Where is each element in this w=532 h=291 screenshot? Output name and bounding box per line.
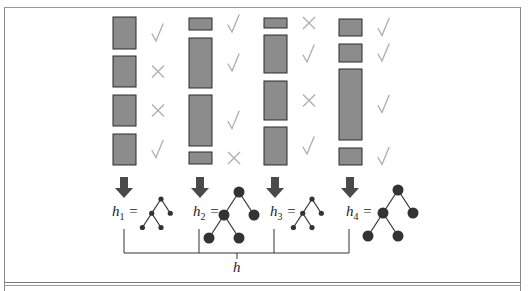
tree-node [204, 233, 215, 244]
tree-node [291, 225, 296, 230]
sample-box [339, 19, 362, 36]
cross-mark-icon [303, 17, 315, 29]
sample-box [264, 127, 287, 165]
check-mark-icon [228, 112, 239, 129]
diagram-canvas [0, 0, 532, 291]
tree-node [393, 231, 404, 242]
check-mark-icon [303, 137, 314, 154]
hypothesis-label-2: h2 = [193, 203, 219, 222]
check-mark-icon [378, 148, 389, 165]
tree-node [140, 225, 145, 230]
hypothesis-label-4: h4 = [346, 203, 372, 222]
ensemble-diagram: h1 = h2 = h3 = h4 = h [0, 0, 532, 291]
check-mark-icon [378, 96, 389, 113]
tree-node [378, 208, 389, 219]
tree-node [234, 233, 245, 244]
sample-box [339, 148, 362, 165]
cross-mark-icon [228, 152, 240, 164]
sample-box [189, 38, 212, 88]
sample-box [189, 95, 212, 146]
tree-node [168, 211, 173, 216]
tree-node [309, 196, 314, 201]
tree-node [249, 210, 260, 221]
check-mark-icon [228, 54, 239, 71]
check-mark-icon [228, 15, 239, 32]
tree-node [363, 231, 374, 242]
sample-box [113, 17, 136, 49]
tree-node [300, 211, 305, 216]
sample-box [264, 35, 287, 73]
down-arrow-icon [266, 177, 284, 198]
down-arrow-icon [191, 177, 209, 198]
sample-box [113, 56, 136, 87]
tree-node [319, 211, 324, 216]
cross-mark-icon [152, 66, 164, 78]
down-arrow-icon [115, 177, 133, 198]
tree-node [158, 225, 163, 230]
tree-node [149, 211, 154, 216]
sample-box [113, 134, 136, 165]
hypothesis-label-3: h3 = [270, 203, 296, 222]
sample-box [113, 95, 136, 126]
tree-node [234, 187, 245, 198]
sample-box [264, 81, 287, 120]
check-mark-icon [152, 141, 163, 158]
check-mark-icon [378, 19, 389, 36]
check-mark-icon [378, 44, 389, 61]
combined-hypothesis-label: h [233, 259, 241, 276]
down-arrow-icon [341, 177, 359, 198]
sample-box [189, 18, 212, 30]
tree-node [408, 208, 419, 219]
tree-node [219, 210, 230, 221]
sample-box [339, 69, 362, 140]
hypothesis-label-1: h1 = [112, 203, 138, 222]
tree-node [158, 196, 163, 201]
check-mark-icon [152, 24, 163, 41]
cross-mark-icon [152, 105, 164, 117]
sample-box [339, 44, 362, 62]
cross-mark-icon [303, 95, 315, 107]
sample-box [264, 18, 287, 28]
sample-box [189, 152, 212, 164]
tree-node [393, 185, 404, 196]
check-mark-icon [303, 45, 314, 62]
tree-node [309, 225, 314, 230]
